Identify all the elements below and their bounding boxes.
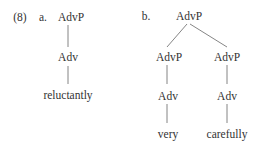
tree-b-root: AdvP xyxy=(176,10,202,22)
tree-b-left-leaf: very xyxy=(158,128,178,140)
tree-b-left-head: Adv xyxy=(158,90,178,102)
tree-b-right-leaf: carefully xyxy=(207,128,248,140)
tree-b-left-phrase: AdvP xyxy=(156,51,182,63)
tree-a-root: AdvP xyxy=(58,11,84,23)
tree-a-child: Adv xyxy=(58,51,78,63)
tree-a-label: a. xyxy=(39,11,47,23)
tree-b-right-head: Adv xyxy=(217,90,237,102)
tree-b-label: b. xyxy=(142,10,151,22)
tree-a-leaf: reluctantly xyxy=(43,89,92,101)
tree-b-right-phrase: AdvP xyxy=(214,51,240,63)
example-number: (8) xyxy=(13,11,26,23)
